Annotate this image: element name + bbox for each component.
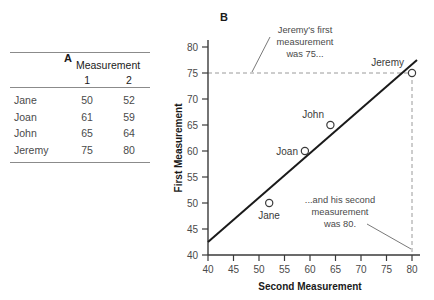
row-measurement-2: 52: [108, 89, 150, 108]
row-name: Joan: [10, 108, 66, 125]
data-point-jane: [266, 199, 273, 206]
x-tick-label: 50: [253, 264, 265, 275]
callout-bottom-line-1: ...and his second: [305, 195, 375, 205]
x-tick-label: 80: [406, 264, 418, 275]
x-tick-label: 40: [202, 264, 214, 275]
scatter-chart-panel: B 80 75 70 65 60 55 50: [168, 0, 434, 300]
empty-corner-cell: [10, 54, 66, 73]
callout-first-measurement: Jeremy's first measurement was 75...: [252, 25, 334, 72]
callout-bottom-leader-line: [367, 224, 411, 249]
y-tick-label: 65: [187, 120, 199, 131]
y-tick-label: 60: [187, 146, 199, 157]
x-tick-label: 75: [381, 264, 393, 275]
y-tick-label: 55: [187, 172, 199, 183]
y-axis-tick-labels: 80 75 70 65 60 55 50 45 40: [187, 42, 199, 261]
row-measurement-1: 75: [66, 141, 108, 158]
x-tick-label: 45: [228, 264, 240, 275]
row-name: Jeremy: [10, 141, 66, 158]
callout-bottom-line-3: was 80.: [323, 219, 356, 229]
scatter-chart: 80 75 70 65 60 55 50 45 40 40 45 50: [168, 0, 434, 300]
y-tick-label: 45: [187, 224, 199, 235]
x-axis-title: Second Measurement: [258, 281, 362, 292]
row-name: John: [10, 124, 66, 141]
data-point-label-jeremy: Jeremy: [371, 57, 404, 68]
measurement-table: Measurement 1 2 Jane 50 52 Joan 61 59 Jo…: [10, 52, 150, 164]
row-measurement-2: 80: [108, 141, 150, 158]
table-group-header-row: Measurement: [10, 54, 150, 73]
callout-bottom-line-2: measurement: [312, 207, 369, 217]
group-header-measurement: Measurement: [66, 54, 150, 73]
row-measurement-2: 64: [108, 124, 150, 141]
data-point-label-john: John: [302, 109, 324, 120]
callout-top-line-2: measurement: [277, 37, 334, 47]
x-tick-label: 60: [304, 264, 316, 275]
measurement-table-panel: Measurement 1 2 Jane 50 52 Joan 61 59 Jo…: [10, 52, 162, 164]
table-row: Joan 61 59: [10, 108, 150, 125]
empty-corner-cell-2: [10, 73, 66, 88]
data-points: [266, 69, 416, 206]
data-point-label-jane: Jane: [258, 210, 280, 221]
y-axis-ticks: [202, 47, 208, 255]
row-measurement-1: 65: [66, 124, 108, 141]
row-measurement-1: 61: [66, 108, 108, 125]
y-tick-label: 75: [187, 68, 199, 79]
y-tick-label: 50: [187, 198, 199, 209]
column-header-1: 1: [66, 73, 108, 88]
table-subheader-row: 1 2: [10, 73, 150, 88]
x-tick-label: 55: [279, 264, 291, 275]
data-point-john: [327, 121, 334, 128]
callout-top-line-1: Jeremy's first: [278, 25, 333, 35]
table-row: Jane 50 52: [10, 89, 150, 108]
row-measurement-2: 59: [108, 108, 150, 125]
callout-top-line-3: was 75...: [285, 49, 323, 59]
y-tick-label: 80: [187, 42, 199, 53]
table-rule-bottom: [10, 163, 150, 165]
row-measurement-1: 50: [66, 89, 108, 108]
y-tick-label: 70: [187, 94, 199, 105]
data-point-jeremy: [408, 69, 415, 76]
x-tick-label: 70: [355, 264, 367, 275]
y-axis-title: First Measurement: [173, 103, 184, 193]
y-tick-label: 40: [187, 250, 199, 261]
column-header-2: 2: [108, 73, 150, 88]
row-name: Jane: [10, 89, 66, 108]
callout-second-measurement: ...and his second measurement was 80.: [305, 195, 411, 249]
data-point-joan: [301, 147, 308, 154]
x-axis-tick-labels: 40 45 50 55 60 65 70 75 80: [202, 264, 418, 275]
x-tick-label: 65: [330, 264, 342, 275]
callout-top-leader-line: [252, 37, 270, 72]
table-row: Jeremy 75 80: [10, 141, 150, 158]
data-point-label-joan: Joan: [276, 146, 298, 157]
table-row: John 65 64: [10, 124, 150, 141]
x-axis-ticks: [208, 255, 412, 261]
